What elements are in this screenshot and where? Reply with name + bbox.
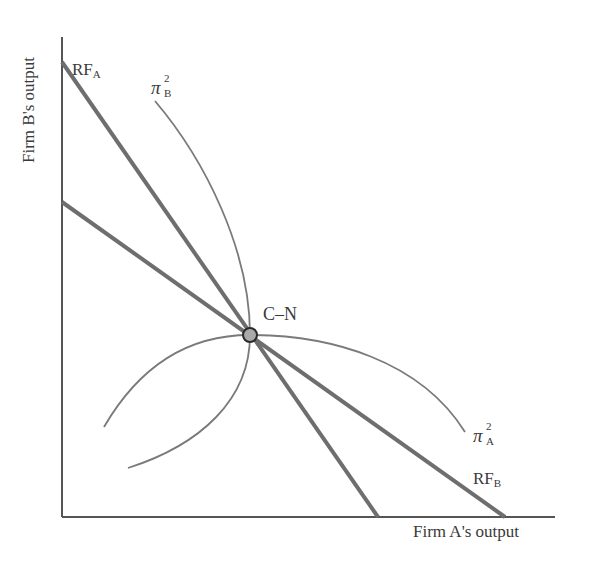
pi-b-label: π 2 B xyxy=(151,77,161,99)
reaction-function-b xyxy=(62,202,505,517)
y-axis-label: Firm B's output xyxy=(19,40,39,180)
cournot-nash-point xyxy=(243,328,257,342)
diagram-canvas xyxy=(0,0,591,573)
x-axis-label: Firm A's output xyxy=(413,522,519,542)
isoprofit-curve-b xyxy=(128,101,250,468)
rf-a-label: RFA xyxy=(72,60,101,80)
cn-label: C–N xyxy=(263,304,297,325)
rf-b-label: RFB xyxy=(473,469,501,489)
reaction-function-a xyxy=(62,62,378,517)
pi-a-label: π 2 A xyxy=(473,425,483,447)
